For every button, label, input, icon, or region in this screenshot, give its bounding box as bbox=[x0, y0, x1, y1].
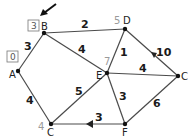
edge-F-C-right bbox=[125, 76, 178, 124]
weight-F-C-right: 6 bbox=[153, 97, 161, 110]
node-C-bottom bbox=[49, 122, 53, 126]
weight-A-C: 4 bbox=[26, 94, 34, 107]
weight-E-D: 1 bbox=[120, 46, 128, 59]
weight-E-F: 3 bbox=[119, 90, 127, 103]
mark-D: 5 bbox=[114, 15, 120, 26]
label-B: B bbox=[41, 21, 48, 32]
label-F: F bbox=[122, 127, 128, 137]
weight-F-C: 3 bbox=[95, 111, 103, 124]
node-E bbox=[105, 71, 109, 75]
mark-B: 3 bbox=[31, 21, 37, 31]
node-F bbox=[123, 122, 127, 126]
arrowhead-icon bbox=[86, 120, 93, 128]
weight-B-E: 4 bbox=[78, 43, 86, 56]
weight-E-C: 4 bbox=[139, 62, 147, 75]
mark-A: 0 bbox=[10, 52, 16, 62]
graph-diagram: 0 3 5 7 4 A B D E C C F 3 2 4 4 5 1 10 4… bbox=[0, 0, 188, 137]
weight-A-B: 3 bbox=[24, 40, 32, 53]
label-E: E bbox=[96, 70, 102, 81]
mark-E: 7 bbox=[104, 56, 110, 67]
pointer-arrow-icon bbox=[40, 4, 56, 16]
node-A bbox=[16, 69, 20, 73]
label-D: D bbox=[123, 15, 131, 26]
weight-B-D: 2 bbox=[81, 18, 89, 31]
weight-D-C: 10 bbox=[156, 46, 172, 59]
weight-C-E: 5 bbox=[75, 85, 83, 98]
edge-A-C bbox=[18, 71, 51, 124]
label-C-right: C bbox=[181, 71, 188, 82]
label-C-bottom: C bbox=[47, 127, 54, 137]
mark-C: 4 bbox=[38, 121, 44, 132]
node-C-right bbox=[176, 74, 180, 78]
node-D bbox=[123, 27, 127, 31]
label-A: A bbox=[9, 69, 16, 80]
edge-B-E bbox=[44, 33, 107, 73]
